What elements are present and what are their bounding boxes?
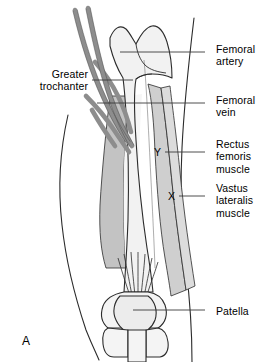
marker-y: Y <box>154 146 161 158</box>
tibia-shaft <box>128 330 146 362</box>
anatomy-figure: Femoral artery Femoral vein Rectus femor… <box>0 0 263 362</box>
label-femoral-vein: Femoral vein <box>216 94 255 119</box>
marker-x: X <box>168 190 175 202</box>
panel-letter-a: A <box>22 334 30 348</box>
label-patella: Patella <box>216 305 249 317</box>
label-greater-trochanter: Greater trochanter <box>10 68 88 93</box>
label-femoral-artery: Femoral artery <box>216 43 255 68</box>
label-vastus-lateralis-muscle: Vastus lateralis muscle <box>216 182 253 219</box>
knee-joint-group <box>102 292 169 362</box>
label-rectus-femoris-muscle: Rectus femoris muscle <box>216 138 251 175</box>
tibia-lateral-plateau <box>146 328 168 357</box>
left-thigh-contour <box>60 115 99 360</box>
tibia-medial-plateau <box>103 328 128 357</box>
